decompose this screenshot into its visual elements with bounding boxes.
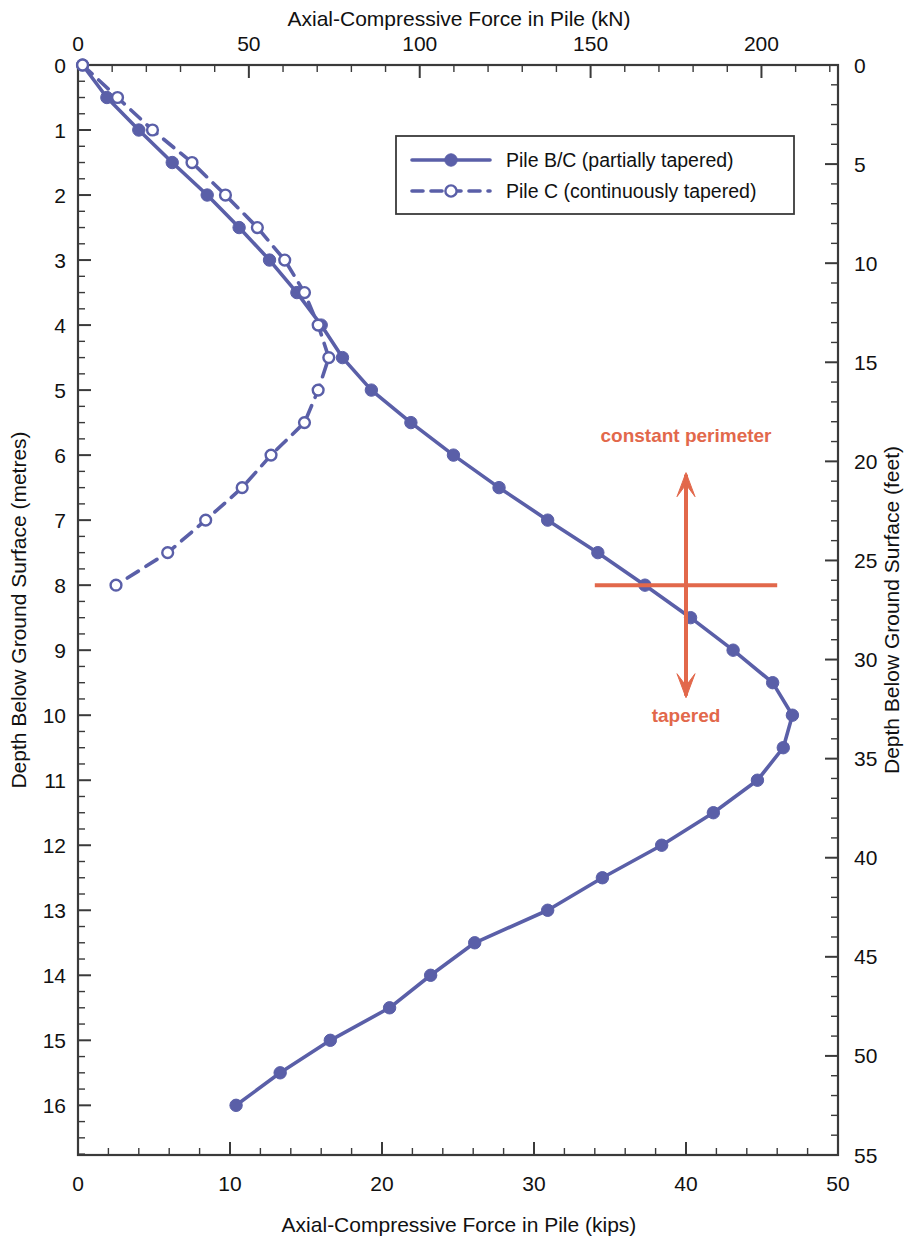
tick-label: 100 xyxy=(402,32,437,55)
data-point-marker xyxy=(252,222,263,233)
data-point-marker xyxy=(112,92,123,103)
data-point-marker xyxy=(405,416,417,428)
data-point-marker xyxy=(147,125,158,136)
data-point-marker xyxy=(233,221,245,233)
tick-label: 12 xyxy=(43,834,66,857)
data-point-marker xyxy=(365,384,377,396)
legend-entry-label: Pile C (continuously tapered) xyxy=(506,180,756,202)
tick-label: 50 xyxy=(237,32,260,55)
tick-label: 45 xyxy=(854,945,877,968)
data-point-marker xyxy=(299,287,310,298)
data-point-marker xyxy=(424,969,436,981)
tick-label: 10 xyxy=(854,252,877,275)
data-point-marker xyxy=(77,60,88,71)
tick-label: 6 xyxy=(54,444,66,467)
tick-label: 1 xyxy=(54,119,66,142)
tick-label: 30 xyxy=(522,1172,545,1195)
tick-label: 8 xyxy=(54,574,66,597)
axial-force-depth-chart: Axial-Compressive Force in Pile (kN) Axi… xyxy=(0,0,920,1240)
data-point-marker xyxy=(201,189,213,201)
tick-label: 2 xyxy=(54,184,66,207)
data-point-marker xyxy=(447,449,459,461)
legend-entry-label: Pile B/C (partially tapered) xyxy=(506,149,734,171)
data-point-marker xyxy=(596,872,608,884)
tick-label: 3 xyxy=(54,249,66,272)
legend-frame xyxy=(396,136,794,214)
tick-label: 20 xyxy=(854,450,877,473)
data-point-marker xyxy=(200,515,211,526)
data-point-marker xyxy=(237,482,248,493)
tick-label: 0 xyxy=(854,54,866,77)
data-point-marker xyxy=(324,1034,336,1046)
data-point-marker xyxy=(777,742,789,754)
data-point-marker xyxy=(383,1002,395,1014)
legend-marker-swatch xyxy=(445,185,456,196)
tick-label: 11 xyxy=(44,769,66,792)
data-point-marker xyxy=(786,709,798,721)
data-point-marker xyxy=(166,156,178,168)
data-point-marker xyxy=(274,1067,286,1079)
data-point-marker xyxy=(592,546,604,558)
data-point-marker xyxy=(313,385,324,396)
bottom-axis-title: Axial-Compressive Force in Pile (kips) xyxy=(282,1213,637,1236)
right-axis-title: Depth Below Ground Surface (feet) xyxy=(880,446,903,774)
tick-label: 10 xyxy=(218,1172,241,1195)
tick-label: 9 xyxy=(54,639,66,662)
data-point-marker xyxy=(162,547,173,558)
tick-label: 200 xyxy=(744,32,779,55)
tick-label: 16 xyxy=(43,1094,66,1117)
chart-figure: Axial-Compressive Force in Pile (kN) Axi… xyxy=(0,0,920,1240)
tick-label: 4 xyxy=(54,314,66,337)
tick-label: 7 xyxy=(54,509,66,532)
legend-box[interactable]: Pile B/C (partially tapered)Pile C (cont… xyxy=(396,136,794,214)
tapered-annotation-label: tapered xyxy=(652,705,721,726)
data-point-marker xyxy=(220,190,231,201)
tick-label: 5 xyxy=(54,379,66,402)
data-point-marker xyxy=(469,937,481,949)
tick-label: 10 xyxy=(43,704,66,727)
tick-label: 0 xyxy=(54,54,66,77)
tick-label: 30 xyxy=(854,648,877,671)
tick-label: 50 xyxy=(854,1044,877,1067)
data-point-marker xyxy=(299,417,310,428)
data-point-marker xyxy=(727,644,739,656)
tick-label: 55 xyxy=(854,1144,877,1167)
data-point-marker xyxy=(707,807,719,819)
tick-label: 15 xyxy=(854,351,877,374)
top-axis-title: Axial-Compressive Force in Pile (kN) xyxy=(287,7,630,30)
tick-label: 14 xyxy=(43,964,67,987)
tick-label: 40 xyxy=(854,846,877,869)
tick-label: 20 xyxy=(370,1172,393,1195)
data-point-marker xyxy=(266,450,277,461)
data-point-marker xyxy=(133,124,145,136)
data-point-marker xyxy=(187,157,198,168)
data-point-marker xyxy=(541,904,553,916)
tick-label: 0 xyxy=(72,32,84,55)
left-axis-title: Depth Below Ground Surface (metres) xyxy=(7,431,30,788)
legend-marker-swatch xyxy=(445,154,457,166)
data-point-marker xyxy=(751,774,763,786)
data-point-marker xyxy=(493,481,505,493)
data-point-marker xyxy=(230,1099,242,1111)
data-point-marker xyxy=(766,676,778,688)
data-point-marker xyxy=(541,514,553,526)
constant-perimeter-annotation-label: constant perimeter xyxy=(600,425,772,446)
tick-label: 5 xyxy=(854,153,866,176)
tick-label: 25 xyxy=(854,549,877,572)
data-point-marker xyxy=(313,320,324,331)
tick-label: 150 xyxy=(573,32,608,55)
tick-label: 15 xyxy=(43,1029,66,1052)
data-point-marker xyxy=(263,254,275,266)
data-point-marker xyxy=(323,352,334,363)
tick-label: 13 xyxy=(43,899,66,922)
data-point-marker xyxy=(111,580,122,591)
tick-label: 40 xyxy=(674,1172,697,1195)
tick-label: 35 xyxy=(854,747,877,770)
data-point-marker xyxy=(655,839,667,851)
tick-label: 0 xyxy=(72,1172,84,1195)
tick-label: 50 xyxy=(826,1172,849,1195)
data-point-marker xyxy=(336,351,348,363)
data-point-marker xyxy=(279,255,290,266)
